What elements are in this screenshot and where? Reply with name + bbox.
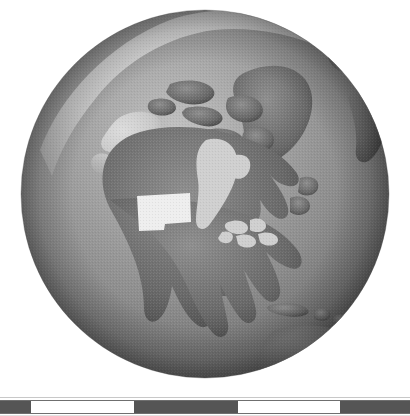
scale-bar-segment bbox=[340, 401, 410, 413]
scale-bar-segment bbox=[134, 401, 238, 413]
distance-scale-bar bbox=[0, 400, 410, 414]
globe-illustration bbox=[0, 0, 410, 390]
scale-bar-top-rule bbox=[0, 397, 410, 398]
globe-limb-shadow bbox=[21, 10, 389, 378]
scale-bar-segment bbox=[238, 401, 340, 413]
globe-figure bbox=[0, 0, 410, 390]
figure-canvas bbox=[0, 0, 410, 416]
scale-bar-segment bbox=[0, 401, 31, 413]
scale-bar-segment bbox=[31, 401, 134, 413]
